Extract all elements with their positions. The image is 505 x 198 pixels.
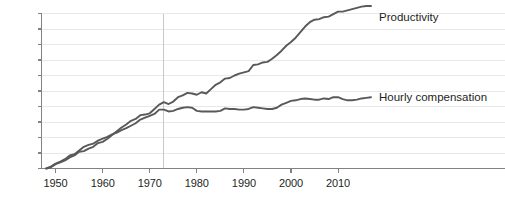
x-axis-tick-label: 1960 xyxy=(91,178,115,189)
x-axis-tick-label: 2010 xyxy=(326,178,350,189)
productivity-pay-gap-chart: 0%25%50%75%100%125%150%175%200%225%250% … xyxy=(0,0,505,198)
x-axis-tick-label: 1950 xyxy=(44,178,68,189)
x-axis-tick-label: 1990 xyxy=(232,178,256,189)
series-label-hourly-compensation: Hourly compensation xyxy=(379,92,487,104)
x-axis-tick-label: 1980 xyxy=(185,178,209,189)
series-label-productivity: Productivity xyxy=(379,12,438,24)
x-axis-tick-label: 1970 xyxy=(138,178,162,189)
x-axis-tick-label: 2000 xyxy=(279,178,303,189)
